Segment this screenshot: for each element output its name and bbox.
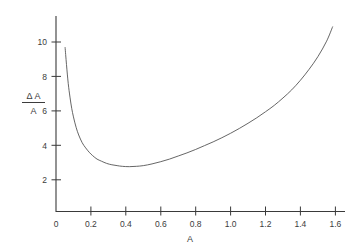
x-tick-label-1-6: 1.6 xyxy=(329,219,341,229)
y-tick-label-8: 8 xyxy=(42,72,47,82)
x-axis-title: A xyxy=(187,234,193,244)
x-tick-label-0-4: 0.4 xyxy=(120,219,132,229)
y-tick-labels: 2 4 6 8 10 xyxy=(38,37,48,185)
y-axis-title-denominator: A xyxy=(30,106,36,116)
x-tick-label-0-6: 0.6 xyxy=(155,219,167,229)
x-tick-label-1-0: 1.0 xyxy=(225,219,237,229)
x-tick-label-0-8: 0.8 xyxy=(190,219,202,229)
x-tick-label-1-2: 1.2 xyxy=(260,219,272,229)
x-tick-label-0: 0 xyxy=(54,219,59,229)
y-axis-title-numerator: Δ A xyxy=(26,91,40,101)
y-tick-label-6: 6 xyxy=(42,106,47,116)
data-curve-line xyxy=(65,27,333,167)
x-tick-labels: 0 0.2 0.4 0.6 0.8 1.0 1.2 1.4 1.6 xyxy=(54,219,342,229)
x-tick-label-1-4: 1.4 xyxy=(294,219,306,229)
y-tick-label-4: 4 xyxy=(42,141,47,151)
y-tick-label-2: 2 xyxy=(42,175,47,185)
y-tick-label-10: 10 xyxy=(38,37,48,47)
plot-svg: 2 4 6 8 10 0 0.2 0.4 0.6 0.8 1.0 1.2 xyxy=(0,0,358,252)
chart-figure: 2 4 6 8 10 0 0.2 0.4 0.6 0.8 1.0 1.2 xyxy=(0,0,358,252)
x-tick-label-0-2: 0.2 xyxy=(85,219,97,229)
